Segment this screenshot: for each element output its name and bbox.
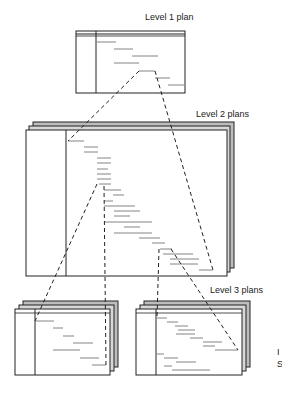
level-2-plans xyxy=(26,122,234,276)
hierarchical-plans-diagram xyxy=(0,0,282,394)
level-3-plans-right xyxy=(136,301,250,375)
level-1-plan xyxy=(76,31,185,93)
level-3-plans-left xyxy=(15,301,118,375)
